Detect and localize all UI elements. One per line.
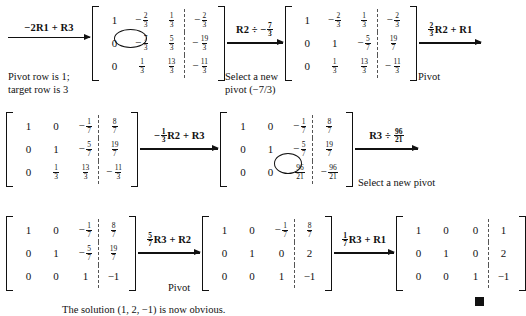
matrix-row: 1 0 −17 87: [16, 219, 126, 242]
matrix-2-table: 1 −23 13 −23 0 1 −57 197 0 13 133 −113: [295, 9, 407, 78]
cell: 0: [212, 265, 237, 288]
operation-label-1: −2R1 + R3: [24, 22, 73, 33]
cell: 0: [237, 219, 267, 242]
matrix-3-table: 1 0 −17 87 0 1 −57 197 0 13 133 −113: [16, 115, 128, 184]
cell: 1: [267, 265, 295, 288]
cell: 0: [230, 161, 255, 184]
matrix-5: 1 0 −17 87 0 1 −57 197 0 0 1 −1: [6, 216, 136, 291]
matrix-row: 0 1 −57 197: [295, 32, 407, 55]
cell-augmented: 2: [295, 242, 323, 265]
cell: 0: [102, 55, 127, 78]
cell: 1: [320, 32, 350, 55]
cell: 1: [41, 242, 71, 265]
matrix-row: 0 13 133 −113: [16, 161, 128, 184]
operation-arrow-3: 23R2 + R1: [419, 6, 481, 48]
cell-pivot: −73: [127, 32, 157, 55]
cell: 0: [431, 265, 461, 288]
cell: 133: [350, 55, 378, 78]
cell-augmented: −9621: [313, 161, 343, 184]
cell-augmented: −23: [185, 9, 215, 32]
cell-augmented: 197: [377, 32, 407, 55]
caption-select-new-pivot: Select a new pivot: [358, 176, 435, 189]
cell: 53: [157, 32, 185, 55]
matrix-row: 0 1 −57 197: [230, 138, 343, 161]
cell: −57: [71, 138, 99, 161]
arrow-icon-6: [138, 249, 200, 258]
cell: −17: [285, 115, 313, 138]
operation-label-2: R2 ÷ −73: [236, 22, 273, 38]
cell: 0: [461, 219, 489, 242]
conclusion-text: The solution (1, 2, −1) is now obvious.: [62, 303, 225, 316]
operation-label-6: 57R3 + R2: [147, 232, 191, 248]
bracket-left-icon: [6, 216, 13, 291]
cell-augmented: 87: [295, 219, 323, 242]
cell: 133: [71, 161, 99, 184]
cell: 0: [16, 161, 41, 184]
cell-augmented: 197: [99, 242, 127, 265]
cell-augmented: −193: [185, 32, 215, 55]
operation-arrow-4: −13R2 + R3: [140, 112, 218, 154]
cell: 1: [230, 115, 255, 138]
operation-label-7: 17R3 + R1: [342, 232, 386, 248]
cell: 1: [237, 242, 267, 265]
cell: 0: [41, 219, 71, 242]
operation-label-5: R3 ÷ 9621: [369, 128, 404, 144]
matrix-1-table: 1 −23 13 −23 0 −73 53 −193 0 13 133 −113: [102, 9, 215, 78]
matrix-row: 0 1 −57 197: [16, 138, 128, 161]
cell: −17: [267, 219, 295, 242]
matrix-row: 0 1 0 2: [212, 242, 322, 265]
cell: 133: [157, 55, 185, 78]
cell: −57: [285, 138, 313, 161]
matrix-1: 1 −23 13 −23 0 −73 53 −193 0 13 133 −113: [92, 6, 225, 81]
cell: 0: [237, 265, 267, 288]
bracket-left-icon: [396, 216, 403, 291]
cell-augmented: −113: [99, 161, 129, 184]
matrix-5-table: 1 0 −17 87 0 1 −57 197 0 0 1 −1: [16, 219, 126, 288]
operation-label-3: 23R2 + R1: [428, 22, 472, 38]
arrow-icon-2: [227, 39, 283, 48]
operation-arrow-2: R2 ÷ −73: [227, 6, 283, 48]
matrix-row: 1 0 −17 87: [212, 219, 322, 242]
cell: 1: [41, 138, 71, 161]
bracket-left-icon: [202, 216, 209, 291]
arrow-icon-1: [8, 34, 90, 43]
arrow-icon-4: [140, 145, 218, 154]
cell: −23: [320, 9, 350, 32]
cell-augmented: −1: [489, 265, 517, 288]
cell: 1: [16, 219, 41, 242]
bracket-right-icon: [129, 216, 136, 291]
bracket-right-icon: [131, 112, 138, 187]
bracket-right-icon: [410, 6, 417, 81]
bracket-right-icon: [325, 216, 332, 291]
matrix-4-table: 1 0 −17 87 0 1 −57 197 0 0 9621 −9621: [230, 115, 343, 184]
matrix-7-table: 1 0 0 1 0 1 0 2 0 0 1 −1: [406, 219, 516, 288]
matrix-row: 0 0 1 −1: [212, 265, 322, 288]
cell: 1: [102, 9, 127, 32]
cell: 13: [41, 161, 71, 184]
matrix-row: 1 −23 13 −23: [295, 9, 407, 32]
caption-pivot-1: Pivot: [418, 70, 440, 83]
matrix-4: 1 0 −17 87 0 1 −57 197 0 0 9621 −9621: [220, 112, 353, 187]
cell-augmented: 2: [489, 242, 517, 265]
bracket-left-icon: [285, 6, 292, 81]
cell: 0: [41, 115, 71, 138]
matrix-row: 0 0 1 −1: [406, 265, 516, 288]
cell: 1: [16, 115, 41, 138]
cell: 0: [16, 242, 41, 265]
cell: 13: [350, 9, 378, 32]
matrix-6: 1 0 −17 87 0 1 0 2 0 0 1 −1: [202, 216, 332, 291]
cell-augmented: −113: [377, 55, 407, 78]
cell: −17: [71, 115, 99, 138]
operation-label-4: −13R2 + R3: [154, 128, 205, 144]
bracket-right-icon: [346, 112, 353, 187]
cell: 0: [461, 242, 489, 265]
matrix-row: 0 0 1 −1: [16, 265, 126, 288]
cell: 0: [255, 161, 285, 184]
matrix-row: 0 −73 53 −193: [102, 32, 215, 55]
matrix-row: 1 0 −17 87: [230, 115, 343, 138]
cell: 0: [230, 138, 255, 161]
cell-augmented: 197: [313, 138, 343, 161]
bracket-right-icon: [218, 6, 225, 81]
cell-augmented: 87: [99, 219, 127, 242]
